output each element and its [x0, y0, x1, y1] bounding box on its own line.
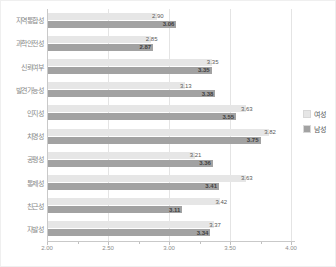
bar-male [48, 229, 210, 236]
x-axis-minor-tick [261, 242, 262, 244]
x-tick-label: 2.00 [34, 245, 60, 251]
bar-female [48, 129, 269, 136]
legend-label-female: 여성 [314, 109, 325, 119]
bar-female [48, 59, 212, 66]
legend-swatch-female-icon [303, 110, 311, 118]
category-label: 통제성 [1, 179, 43, 188]
x-tick-label: 4.00 [278, 245, 304, 251]
category-label: 친근성 [1, 202, 43, 211]
bar-value-label: 3.38 [193, 90, 213, 98]
category-label: 자발성 [1, 225, 43, 234]
bar-value-label: 3.37 [204, 221, 226, 229]
x-axis-minor-tick [200, 242, 201, 244]
bar-value-label: 3.11 [160, 206, 180, 214]
bar-female [48, 198, 220, 205]
bar-value-label: 3.63 [236, 105, 258, 113]
bar-female [48, 82, 185, 89]
x-tick-label: 3.00 [156, 245, 182, 251]
bar-chart: 여성 남성 2.002.503.003.504.00지역통합성2.903.06과… [0, 0, 336, 267]
legend-item-male: 남성 [303, 124, 325, 134]
bar-value-label: 3.34 [188, 229, 208, 237]
bar-value-label: 3.41 [197, 182, 217, 190]
legend-swatch-male-icon [303, 125, 311, 133]
category-label: 과학안전성 [1, 39, 43, 48]
bar-male [48, 183, 219, 190]
bar-value-label: 3.35 [190, 66, 210, 74]
x-axis-minor-tick [139, 242, 140, 244]
bar-value-label: 3.42 [210, 198, 232, 206]
bar-value-label: 3.63 [236, 174, 258, 182]
gridline [291, 9, 292, 241]
category-label: 발견가능성 [1, 86, 43, 95]
bar-value-label: 2.90 [147, 12, 169, 20]
legend-label-male: 남성 [314, 124, 325, 134]
legend-item-female: 여성 [303, 109, 325, 119]
bar-value-label: 3.21 [185, 151, 207, 159]
gridline [230, 9, 231, 241]
bar-value-label: 3.55 [214, 113, 234, 121]
x-axis-minor-tick [78, 242, 79, 244]
x-tick-label: 3.50 [217, 245, 243, 251]
category-label: 신뢰여부 [1, 63, 43, 72]
bar-female [48, 105, 246, 112]
bar-value-label: 3.36 [191, 159, 211, 167]
bar-female [48, 36, 151, 43]
bar-male [48, 137, 261, 144]
bar-female [48, 152, 195, 159]
category-label: 치명성 [1, 132, 43, 141]
bar-male [48, 160, 213, 167]
category-label: 공평성 [1, 155, 43, 164]
bar-value-label: 3.13 [175, 82, 197, 90]
bar-value-label: 3.75 [239, 136, 259, 144]
bar-value-label: 3.35 [202, 58, 224, 66]
category-label: 인지성 [1, 109, 43, 118]
x-axis [47, 241, 295, 242]
legend: 여성 남성 [303, 109, 325, 134]
bar-value-label: 2.85 [141, 35, 163, 43]
bar-male [48, 67, 212, 74]
bar-value-label: 3.82 [259, 128, 281, 136]
bar-male [48, 113, 236, 120]
bar-female [48, 13, 157, 20]
bar-female [48, 175, 246, 182]
bar-female [48, 221, 214, 228]
bar-value-label: 3.06 [154, 20, 174, 28]
bar-value-label: 2.87 [131, 43, 151, 51]
bar-male [48, 90, 215, 97]
category-label: 지역통합성 [1, 16, 43, 25]
x-tick-label: 2.50 [95, 245, 121, 251]
